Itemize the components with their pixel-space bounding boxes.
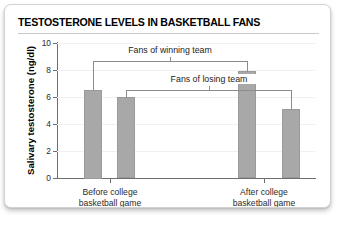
x-category-label-before: Before college basketball game — [50, 187, 170, 208]
x-category-label-after-line2: basketball game — [204, 198, 324, 209]
x-tick-mark-before — [110, 179, 111, 183]
x-category-label-before-line1: Before college — [50, 187, 170, 198]
y-tick-label-8: 8 — [25, 65, 51, 75]
bar-after-losing — [282, 109, 300, 178]
bracket-winning-left-leg — [93, 61, 94, 90]
chart-card: TESTOSTERONE LEVELS IN BASKETBALL FANS S… — [4, 4, 331, 208]
bracket-losing-right-leg — [291, 90, 292, 110]
title-divider — [18, 33, 319, 34]
y-tick-label-6: 6 — [25, 92, 51, 102]
y-axis-tick-labels: 0 2 4 6 8 10 — [21, 43, 51, 178]
y-tick-label-4: 4 — [25, 119, 51, 129]
plot-area: Fans of winning team Fans of losing team — [57, 43, 315, 178]
y-tick-label-0: 0 — [25, 173, 51, 183]
x-category-label-after: After college basketball game — [204, 187, 324, 208]
gridline-10 — [57, 43, 315, 44]
bracket-winning-horizontal — [93, 61, 248, 62]
bracket-losing-stem — [209, 86, 210, 90]
bracket-winning-stem — [170, 57, 171, 61]
y-tick-label-2: 2 — [25, 146, 51, 156]
page-title: TESTOSTERONE LEVELS IN BASKETBALL FANS — [18, 16, 318, 28]
x-tick-mark-after — [264, 179, 265, 183]
x-category-label-after-line1: After college — [204, 187, 324, 198]
bracket-losing-horizontal — [126, 90, 292, 91]
y-tick-label-10: 10 — [25, 38, 51, 48]
bracket-losing-left-leg — [126, 90, 127, 98]
bracket-winning-right-leg — [247, 61, 248, 72]
bar-before-winning — [84, 90, 102, 179]
annotation-fans-of-losing-team: Fans of losing team — [144, 74, 274, 84]
x-category-label-before-line2: basketball game — [50, 198, 170, 209]
bar-before-losing — [117, 97, 135, 178]
annotation-fans-of-winning-team: Fans of winning team — [105, 45, 235, 55]
bar-after-winning — [238, 71, 256, 178]
gridline-8 — [57, 70, 315, 71]
